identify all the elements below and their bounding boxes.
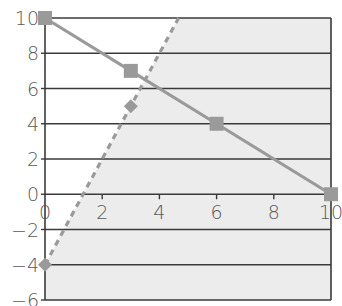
y-tick-label: −2 (11, 219, 39, 241)
y-axis-tick-labels: −6−4−20246810 (11, 7, 39, 306)
y-tick-label: 2 (27, 148, 39, 170)
x-tick-label: 4 (153, 201, 165, 223)
square-marker (38, 11, 52, 25)
x-tick-label: 8 (268, 201, 280, 223)
square-marker (210, 117, 224, 131)
x-tick-label: 0 (39, 201, 51, 223)
square-marker (124, 64, 138, 78)
line-chart: −6−4−20246810 0246810 (0, 0, 342, 306)
y-tick-label: 8 (27, 42, 39, 64)
y-tick-label: 0 (27, 183, 39, 205)
y-tick-label: −6 (11, 289, 39, 306)
x-tick-label: 10 (319, 201, 342, 223)
y-tick-label: 4 (27, 113, 39, 135)
square-marker (324, 187, 338, 201)
y-tick-label: −4 (11, 254, 39, 276)
y-tick-label: 10 (15, 7, 39, 29)
y-tick-label: 6 (27, 78, 39, 100)
x-tick-label: 6 (211, 201, 223, 223)
x-tick-label: 2 (96, 201, 108, 223)
